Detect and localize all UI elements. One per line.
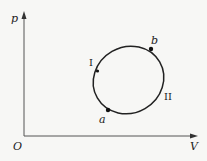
path-I-label: I xyxy=(89,57,93,68)
x-axis-arrow-icon xyxy=(190,134,198,139)
path-I-marker xyxy=(96,69,99,72)
path-II-label: II xyxy=(164,91,172,102)
cycle-loop xyxy=(81,33,176,126)
pv-diagram: p V O b a I II xyxy=(0,0,207,161)
y-axis-label: p xyxy=(11,12,18,25)
point-b-marker xyxy=(149,47,153,51)
y-axis-arrow-icon xyxy=(22,11,27,19)
origin-label: O xyxy=(13,140,22,153)
point-b-label: b xyxy=(151,34,158,47)
point-a-label: a xyxy=(99,113,106,126)
point-a-marker xyxy=(106,108,110,112)
x-axis-label: V xyxy=(190,140,199,153)
